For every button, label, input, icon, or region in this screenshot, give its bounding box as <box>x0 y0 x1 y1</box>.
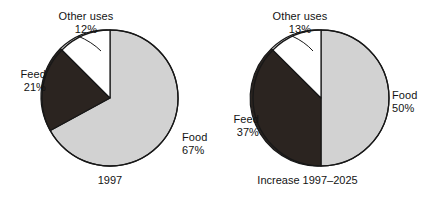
label-feed-1997-percent: 21% <box>0 81 46 94</box>
label-other-uses-1997: Other uses 12% <box>42 10 130 36</box>
label-food-1997-text: Food <box>182 131 207 143</box>
label-food-increase-text: Food <box>392 89 417 101</box>
slice-food-increase[interactable] <box>321 30 389 166</box>
label-feed-1997: Feed 21% <box>0 68 46 94</box>
label-other-uses-1997-percent: 12% <box>42 23 130 36</box>
label-food-1997-percent: 67% <box>182 144 230 157</box>
label-food-increase: Food 50% <box>392 89 435 115</box>
label-other-uses-increase-text: Other uses <box>273 10 328 22</box>
label-food-increase-percent: 50% <box>392 102 435 115</box>
label-feed-1997-text: Feed <box>21 68 46 80</box>
caption-1997: 1997 <box>70 174 150 186</box>
pie-chart-figure: Other uses 12% Feed 21% Food 67% 1997 Ot… <box>0 0 435 200</box>
label-feed-increase-text: Feed <box>234 113 259 125</box>
label-other-uses-1997-text: Other uses <box>59 10 114 22</box>
caption-increase: Increase 1997–2025 <box>245 174 370 186</box>
label-feed-increase: Feed 37% <box>211 113 259 139</box>
label-feed-increase-percent: 37% <box>211 126 259 139</box>
chart-canvas: Other uses 12% Feed 21% Food 67% 1997 Ot… <box>0 0 435 200</box>
label-other-uses-increase-percent: 13% <box>256 23 344 36</box>
label-other-uses-increase: Other uses 13% <box>256 10 344 36</box>
